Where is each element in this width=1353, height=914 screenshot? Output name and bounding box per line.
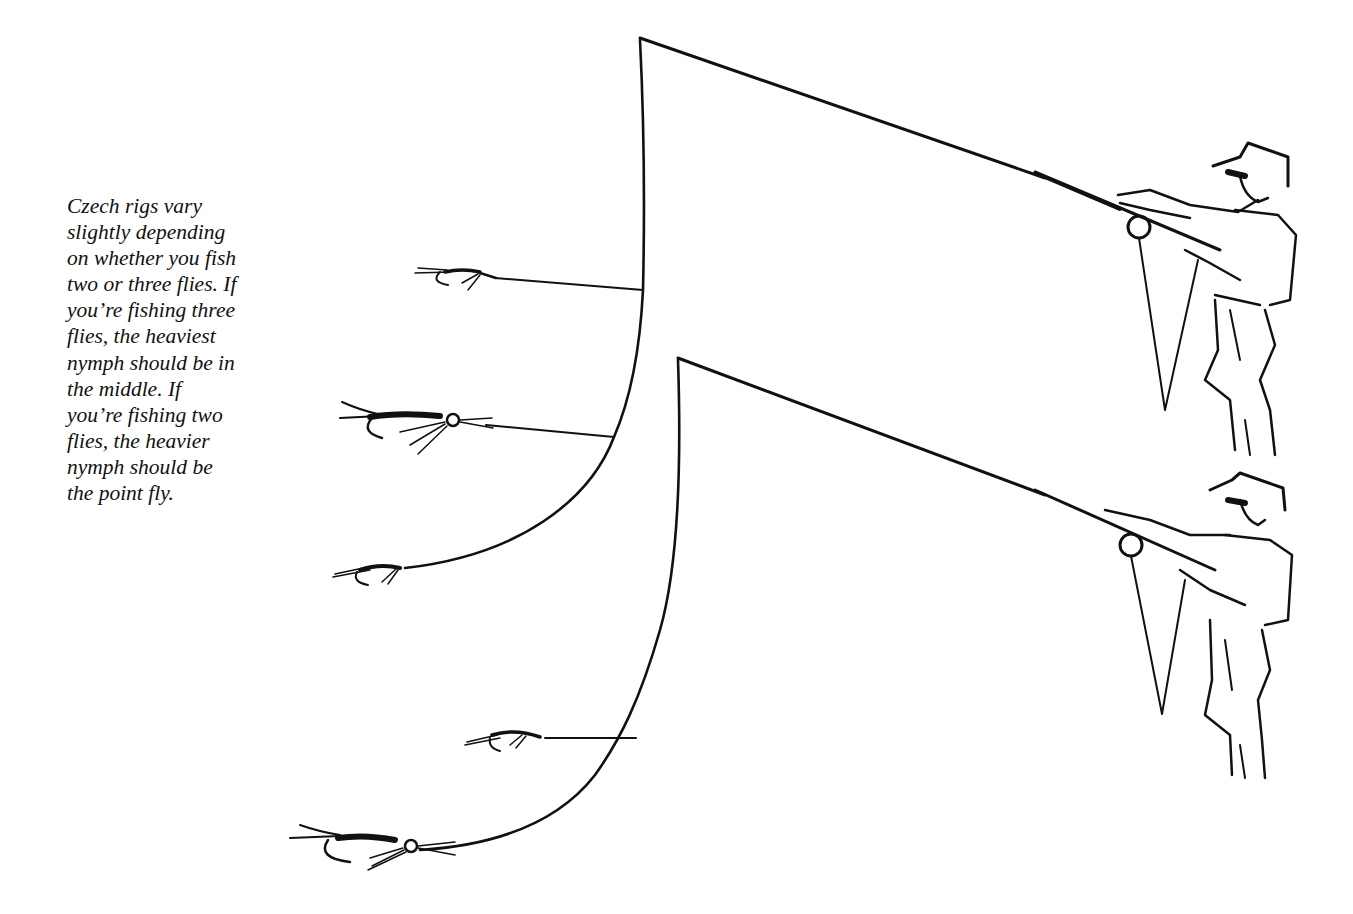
heavy-nymph-icon	[340, 402, 493, 454]
leader	[405, 40, 644, 568]
illustration-page: Czech rigs vary slightly depending on wh…	[0, 0, 1353, 914]
nymph-fly-icon	[415, 268, 496, 290]
angler-figure	[1035, 473, 1292, 778]
point-fly-icon	[333, 566, 400, 585]
angler-figure	[1035, 143, 1296, 455]
dropper-tag	[495, 278, 643, 290]
fly-line	[640, 38, 1045, 178]
three-fly-rig	[333, 38, 1296, 585]
fly-line	[678, 358, 1045, 495]
rig-illustration	[0, 0, 1353, 914]
leader	[420, 360, 679, 850]
nymph-fly-icon	[465, 732, 540, 751]
two-fly-rig	[290, 358, 1292, 870]
dropper-tag	[486, 425, 614, 437]
heavy-nymph-icon	[290, 825, 455, 870]
